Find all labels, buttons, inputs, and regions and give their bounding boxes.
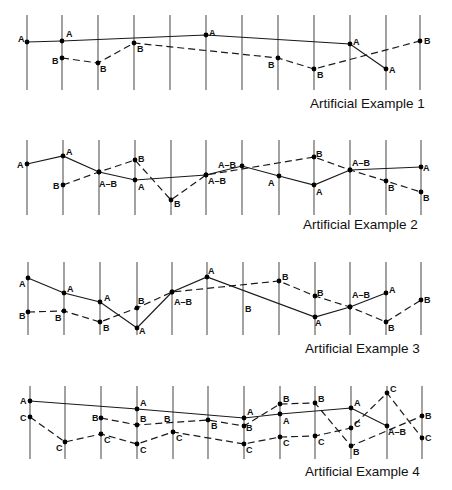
point-label: B xyxy=(282,272,289,282)
point-label: C xyxy=(246,445,253,455)
point-label: B xyxy=(92,413,99,423)
point-label: A xyxy=(66,147,73,157)
series-b-point xyxy=(278,402,283,407)
point-label: B xyxy=(55,313,62,323)
point-label: B xyxy=(424,295,431,305)
point-label: A xyxy=(140,398,147,408)
series-a-point xyxy=(384,67,389,72)
point-label: B xyxy=(283,394,290,404)
series-a-point xyxy=(26,276,31,281)
series-b-point xyxy=(418,39,423,44)
series-a-point xyxy=(25,40,30,45)
series-b-point xyxy=(312,67,317,72)
panel-caption: Artificial Example 1 xyxy=(310,96,425,111)
point-label: B xyxy=(138,296,145,306)
point-label: A xyxy=(19,279,26,289)
series-b-point xyxy=(61,183,66,188)
series-a-point xyxy=(242,416,247,421)
point-label: A–B xyxy=(208,176,227,186)
point-label: B xyxy=(52,56,59,66)
point-label: B xyxy=(137,44,144,54)
point-label: B xyxy=(138,154,145,164)
series-a-point xyxy=(60,39,65,44)
series-b-point xyxy=(206,418,211,423)
point-label: A xyxy=(423,163,430,173)
point-label: C xyxy=(318,437,325,447)
series-c-point xyxy=(99,432,104,437)
point-label: A–B xyxy=(352,158,371,168)
series-b-point xyxy=(135,423,140,428)
series-a-point xyxy=(98,300,103,305)
point-label: A xyxy=(139,326,146,336)
point-label: C xyxy=(425,433,432,443)
point-label: B xyxy=(53,181,60,191)
series-b-point xyxy=(313,401,318,406)
point-label: A xyxy=(17,160,24,170)
panel-example-2: AABA–BBABA–BA–BABAA–BBABArtificial Examp… xyxy=(17,140,430,232)
point-label: B xyxy=(424,36,431,46)
series-b-point xyxy=(277,279,282,284)
series-b-point xyxy=(169,198,174,203)
point-label: B xyxy=(19,311,26,321)
point-label: A xyxy=(209,28,216,38)
point-label: B xyxy=(317,70,324,80)
series-b-point xyxy=(170,290,175,295)
series-b-point xyxy=(348,168,353,173)
series-b-point xyxy=(62,309,67,314)
panel-caption: Artificial Example 2 xyxy=(303,217,418,232)
series-a-point xyxy=(277,174,282,179)
point-label: B xyxy=(174,199,181,209)
point-label: B xyxy=(317,288,324,298)
point-label: C xyxy=(104,435,111,445)
point-label: B xyxy=(268,60,275,70)
point-label: B xyxy=(423,193,430,203)
series-c-point xyxy=(135,442,140,447)
point-label: A xyxy=(208,266,215,276)
point-label: A xyxy=(389,285,396,295)
point-label: B xyxy=(388,323,395,333)
series-a-point xyxy=(25,162,30,167)
series-c-point xyxy=(171,430,176,435)
series-a-point xyxy=(135,407,140,412)
point-label: C xyxy=(283,438,290,448)
series-a-point xyxy=(348,42,353,47)
point-label: A xyxy=(389,65,396,75)
series-b-point xyxy=(133,158,138,163)
series-c-point xyxy=(313,434,318,439)
point-label: A xyxy=(354,398,361,408)
series-a-point xyxy=(62,291,67,296)
point-label: B xyxy=(140,414,147,424)
point-label: B xyxy=(103,323,110,333)
series-b-point xyxy=(98,320,103,325)
series-b-point xyxy=(276,56,281,61)
point-label: A xyxy=(20,396,27,406)
series-c-point xyxy=(420,436,425,441)
point-label: A xyxy=(138,182,145,192)
point-label: B xyxy=(316,149,323,159)
point-label: A–B xyxy=(99,179,118,189)
point-label: B xyxy=(211,421,218,431)
series-b-point xyxy=(132,41,137,46)
panel-example-3: AAABBBBAA–BABBBAA–BABBArtificial Example… xyxy=(19,262,431,356)
point-label: A xyxy=(316,187,323,197)
point-label: C xyxy=(56,443,63,453)
series-b-point xyxy=(348,305,353,310)
point-label: B xyxy=(246,423,253,433)
series-c-point xyxy=(28,415,33,420)
panel-example-1: AABBBABABABArtificial Example 1 xyxy=(18,15,431,111)
series-a-point xyxy=(240,164,245,169)
point-label: A xyxy=(67,284,74,294)
point-label: C xyxy=(140,445,147,455)
point-label: B xyxy=(164,414,171,424)
point-label: A xyxy=(268,178,275,188)
point-label: B xyxy=(425,411,432,421)
panel-caption: Artificial Example 3 xyxy=(305,341,420,356)
series-c-point xyxy=(349,426,354,431)
series-c-point xyxy=(278,435,283,440)
series-c-point xyxy=(385,391,390,396)
series-a-point xyxy=(28,399,33,404)
series-a-point xyxy=(61,154,66,159)
series-b-line xyxy=(62,41,420,69)
point-label: C xyxy=(20,413,27,423)
series-b-point xyxy=(60,56,65,61)
